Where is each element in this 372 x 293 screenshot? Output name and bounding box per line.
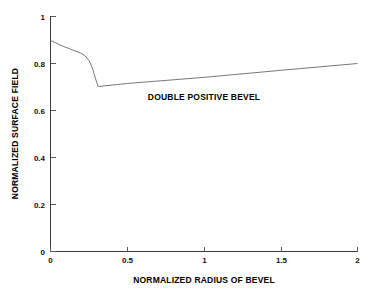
- y-tick-label-4: 0.8: [34, 60, 46, 69]
- y-axis-title: NORMALIZED SURFACE FIELD: [10, 68, 20, 199]
- y-tick-label-3: 0.6: [34, 107, 46, 116]
- y-tick-label-0: 0: [41, 248, 46, 257]
- x-tick-label-3: 1.5: [276, 256, 288, 265]
- plot-area-background: [50, 16, 358, 251]
- x-tick-label-2: 1: [202, 256, 207, 265]
- plot-annotation-label: DOUBLE POSITIVE BEVEL: [148, 92, 260, 102]
- x-axis-tick-labels: 0 0.5 1 1.5 2: [48, 256, 360, 265]
- x-axis-title: NORMALIZED RADIUS OF BEVEL: [133, 275, 275, 285]
- x-tick-label-0: 0: [48, 256, 53, 265]
- x-tick-label-4: 2: [355, 256, 360, 265]
- line-chart: 0 0.2 0.4 0.6 0.8 1 0 0.5 1 1.5 2 DOUBLE…: [0, 0, 372, 293]
- y-tick-label-2: 0.4: [34, 154, 46, 163]
- y-tick-label-5: 1: [41, 13, 46, 22]
- x-tick-label-1: 0.5: [122, 256, 134, 265]
- chart-figure: 0 0.2 0.4 0.6 0.8 1 0 0.5 1 1.5 2 DOUBLE…: [0, 0, 372, 293]
- y-axis-tick-labels: 0 0.2 0.4 0.6 0.8 1: [34, 13, 46, 257]
- y-tick-label-1: 0.2: [34, 201, 46, 210]
